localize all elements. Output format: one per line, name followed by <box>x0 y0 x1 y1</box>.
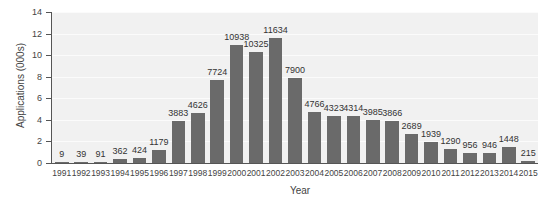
bar-value-label: 1448 <box>489 134 529 144</box>
y-tick-label: 2 <box>24 136 42 146</box>
bar-value-label: 11634 <box>256 25 296 35</box>
y-axis <box>51 12 52 164</box>
gridline <box>52 12 538 13</box>
x-axis-title: Year <box>270 185 330 196</box>
x-axis <box>51 163 538 164</box>
bar-2007 <box>366 120 380 163</box>
bar-1999 <box>210 80 224 163</box>
bar-1998 <box>191 113 205 163</box>
bar-2002 <box>269 38 283 163</box>
bar-chart: 02468101214 Applications (000s) 93991362… <box>0 0 545 204</box>
bar-2004 <box>308 112 322 163</box>
y-tick-label: 6 <box>24 93 42 103</box>
bar-value-label: 215 <box>508 148 545 158</box>
bar-1996 <box>152 150 166 163</box>
y-axis-title: Applications (000s) <box>15 36 26 136</box>
y-tick-label: 0 <box>24 158 42 168</box>
bar-2000 <box>230 45 244 163</box>
gridline <box>52 55 538 56</box>
bar-value-label: 7900 <box>275 65 315 75</box>
bar-2005 <box>327 116 341 163</box>
y-tick-label: 10 <box>24 50 42 60</box>
y-tick-label: 12 <box>24 29 42 39</box>
bar-2006 <box>347 116 361 163</box>
y-tick-label: 8 <box>24 72 42 82</box>
bar-2001 <box>249 52 263 163</box>
bar-2012 <box>463 153 477 163</box>
y-tick-label: 14 <box>24 7 42 17</box>
bar-2013 <box>483 153 497 163</box>
bar-2011 <box>444 149 458 163</box>
bar-2003 <box>288 78 302 163</box>
bar-1997 <box>172 121 186 163</box>
y-tick-label: 4 <box>24 115 42 125</box>
x-tick-label: 2015 <box>513 168 543 178</box>
bar-value-label: 3866 <box>372 108 412 118</box>
